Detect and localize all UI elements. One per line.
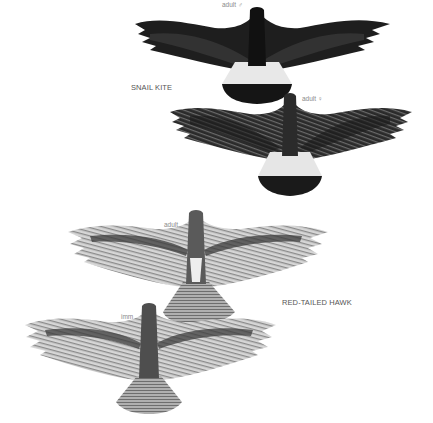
bird-label-immature: imm <box>121 313 133 320</box>
species-label-snail-kite: SNAIL KITE <box>131 83 172 92</box>
bird-label-adult-male: adult ♂ <box>222 1 243 8</box>
snail-kite-adult-male <box>135 7 390 104</box>
bird-illustrations <box>0 0 433 423</box>
snail-kite-adult-female <box>170 93 412 196</box>
species-label-red-tailed-hawk: RED-TAILED HAWK <box>282 298 352 307</box>
bird-label-adult-female: adult ♀ <box>302 95 323 102</box>
field-guide-plate: adult ♂ SNAIL KITE adult ♀ adult RED-TAI… <box>0 0 433 423</box>
bird-label-adult: adult <box>164 221 178 228</box>
red-tailed-hawk-immature <box>25 303 276 414</box>
